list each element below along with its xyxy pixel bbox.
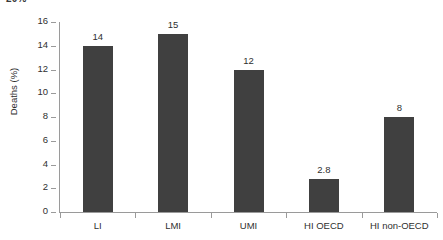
clipped-title-text: 20% (6, 0, 27, 4)
y-tick-mark (51, 188, 56, 189)
bar[interactable] (234, 70, 264, 213)
y-tick-mark (51, 212, 56, 213)
x-tick-mark (135, 213, 136, 218)
bar[interactable] (158, 34, 188, 212)
plot-area (60, 22, 437, 212)
x-tick-mark (437, 213, 438, 218)
y-tick-mark (51, 117, 56, 118)
bar[interactable] (384, 117, 414, 212)
y-tick-label: 14 (37, 39, 48, 50)
y-tick-label: 16 (37, 15, 48, 26)
bar-value-label: 2.8 (317, 164, 330, 175)
y-tick-mark (51, 22, 56, 23)
x-category-label: LMI (165, 220, 181, 231)
y-tick-label: 12 (37, 63, 48, 74)
y-tick-label: 10 (37, 86, 48, 97)
x-category-label: LI (94, 220, 102, 231)
y-tick-mark (51, 70, 56, 71)
bar-value-label: 8 (397, 102, 402, 113)
bar[interactable] (309, 179, 339, 212)
y-tick-label: 4 (43, 158, 48, 169)
y-tick-mark (51, 46, 56, 47)
x-category-label: HI OECD (304, 220, 344, 231)
x-tick-mark (362, 213, 363, 218)
x-tick-mark (60, 213, 61, 218)
y-axis-title: Deaths (%) (8, 52, 19, 132)
y-tick-label: 6 (43, 134, 48, 145)
x-tick-mark (211, 213, 212, 218)
y-tick-label: 2 (43, 181, 48, 192)
x-axis-line (59, 212, 437, 213)
y-tick-label: 8 (43, 110, 48, 121)
bar-value-label: 14 (92, 31, 103, 42)
y-tick-label: 0 (43, 205, 48, 216)
y-tick-mark (51, 141, 56, 142)
x-category-label: HI non-OECD (370, 220, 429, 231)
x-category-label: UMI (240, 220, 257, 231)
bar-value-label: 12 (243, 55, 254, 66)
bar-chart-figure: 20% Deaths (%) 0246810121416 LILMIUMIHI … (0, 0, 443, 240)
bar-value-label: 15 (168, 19, 179, 30)
x-tick-mark (286, 213, 287, 218)
bar[interactable] (83, 46, 113, 212)
y-tick-mark (51, 165, 56, 166)
y-tick-mark (51, 93, 56, 94)
